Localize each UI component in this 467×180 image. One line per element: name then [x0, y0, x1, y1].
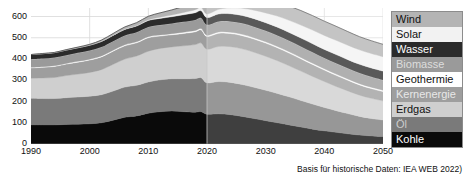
legend-item-label: Erdgas	[396, 103, 431, 115]
legend-item-erdgas[interactable]: Erdgas	[392, 102, 462, 117]
x-tick-label: 2030	[256, 146, 276, 156]
x-axis: 1990200020102020203020402050	[31, 146, 391, 160]
legend-item-label: Solar	[396, 28, 422, 40]
energy-mix-area-chart: 0100200300400500600 19902000201020202030…	[0, 0, 467, 180]
x-tick-label: 2000	[80, 146, 100, 156]
legend-item-wasser[interactable]: Wasser	[392, 42, 462, 57]
y-tick-label: 200	[12, 97, 27, 106]
legend-item-solar[interactable]: Solar	[392, 27, 462, 42]
legend-item-label: Wind	[396, 13, 421, 25]
source-note: Basis für historische Daten: IEA WEB 202…	[0, 164, 462, 174]
legend: WindSolarWasserBiomasseGeothermieKernene…	[391, 11, 463, 148]
y-tick-label: 500	[12, 33, 27, 42]
y-tick-label: 300	[12, 75, 27, 84]
legend-item-label: Öl	[396, 118, 407, 130]
y-tick-label: 600	[12, 12, 27, 21]
plot-svg	[31, 8, 383, 144]
x-tick-label: 2050	[373, 146, 393, 156]
x-tick-label: 2020	[197, 146, 217, 156]
legend-item-label: Kohle	[396, 133, 424, 145]
plot-area	[31, 8, 383, 144]
legend-item-kernenergie[interactable]: Kernenergie	[392, 87, 462, 102]
legend-item-biomasse[interactable]: Biomasse	[392, 57, 462, 72]
y-tick-label: 400	[12, 54, 27, 63]
x-tick-label: 2010	[138, 146, 158, 156]
legend-item-l[interactable]: Öl	[392, 117, 462, 132]
legend-item-kohle[interactable]: Kohle	[392, 132, 462, 147]
legend-item-label: Wasser	[396, 43, 433, 55]
x-tick-label: 2040	[314, 146, 334, 156]
legend-item-geothermie[interactable]: Geothermie	[392, 72, 462, 87]
legend-item-wind[interactable]: Wind	[392, 12, 462, 27]
projection-overlay	[207, 8, 383, 144]
y-axis: 0100200300400500600	[0, 0, 31, 152]
x-tick-label: 1990	[21, 146, 41, 156]
legend-item-label: Kernenergie	[396, 88, 456, 100]
legend-item-label: Geothermie	[396, 73, 453, 85]
legend-item-label: Biomasse	[396, 58, 444, 70]
y-tick-label: 100	[12, 118, 27, 127]
